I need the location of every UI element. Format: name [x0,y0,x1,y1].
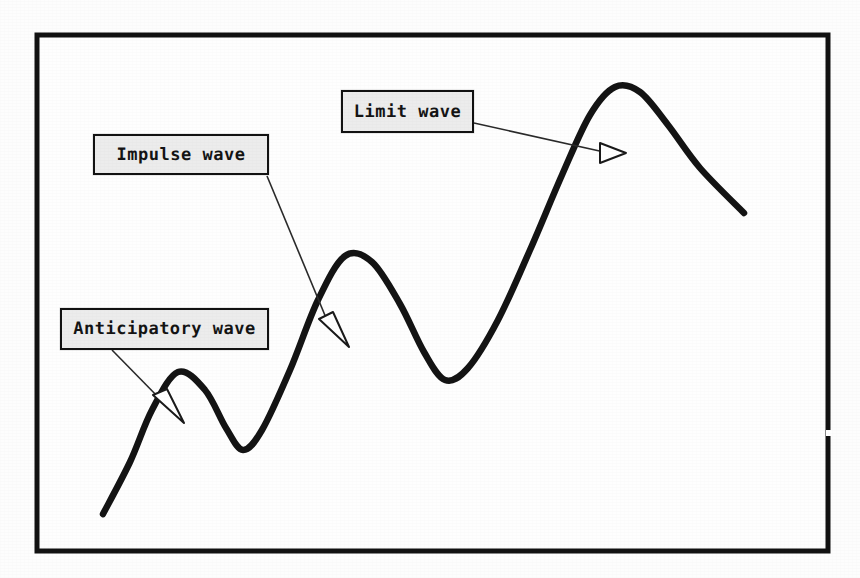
label-impulse-wave[interactable]: Impulse wave [93,134,269,175]
label-anticipatory-wave[interactable]: Anticipatory wave [60,308,269,350]
scan-artifact-gap [826,430,832,436]
wave-diagram-figure: Limit wave Impulse wave Anticipatory wav… [0,0,860,578]
label-limit-wave[interactable]: Limit wave [341,90,474,133]
diagram-canvas [0,0,860,578]
